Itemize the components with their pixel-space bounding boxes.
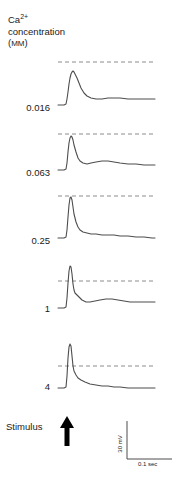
trace-line-3 (58, 266, 155, 308)
trace-line-2 (58, 197, 155, 238)
scale-bar-vertical-label: 30 mV (117, 426, 123, 462)
scale-bar-horizontal-label: 0.1 sec (138, 461, 157, 467)
trace-line-1 (58, 136, 155, 170)
traces-svg (0, 0, 177, 486)
trace-line-0 (58, 71, 155, 105)
stimulus-label: Stimulus (6, 421, 42, 432)
figure-panel: Ca2+ concentration (mM) 0.016 0.063 0.25… (0, 0, 177, 486)
up-arrow-icon (60, 416, 74, 446)
trace-line-4 (58, 344, 155, 388)
scale-bar (127, 421, 172, 459)
